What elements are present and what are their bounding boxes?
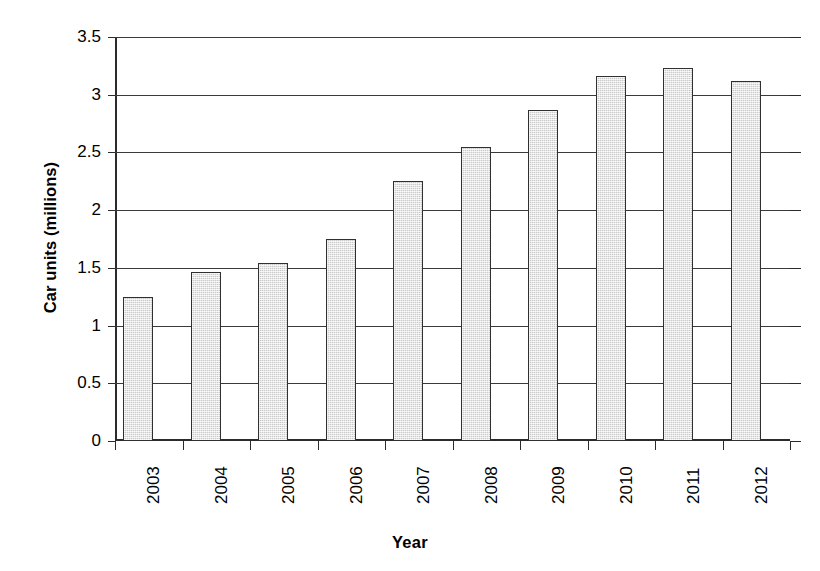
y-axis-tick-right [790, 441, 801, 442]
x-axis-tick-label-2006: 2006 [348, 384, 365, 504]
plot-area [115, 37, 790, 441]
y-axis-tick [108, 37, 115, 38]
x-axis-tick-label-2009: 2009 [550, 384, 567, 504]
x-axis-tick [588, 441, 589, 450]
x-axis-tick-label-2011: 2011 [685, 384, 702, 504]
x-axis-tick [318, 441, 319, 450]
x-axis-tick [790, 441, 791, 450]
x-axis-tick-label-2005: 2005 [280, 384, 297, 504]
y-axis-tick-right [790, 210, 801, 211]
y-axis-tick [108, 268, 115, 269]
y-axis-tick-right [790, 383, 801, 384]
y-axis-tick [108, 95, 115, 96]
x-axis-tick-label-2004: 2004 [213, 384, 230, 504]
y-axis-tick-right [790, 37, 801, 38]
x-axis-tick-label-2007: 2007 [415, 384, 432, 504]
y-axis-tick-label: 2 [45, 201, 101, 218]
y-axis-tick-label: 0.5 [45, 374, 101, 391]
y-axis-tick-label: 1.5 [45, 259, 101, 276]
x-axis-title: Year [0, 533, 820, 552]
x-axis-tick [250, 441, 251, 450]
x-axis-tick [655, 441, 656, 450]
x-axis-tick [115, 441, 116, 450]
bar-slot [115, 37, 183, 441]
y-axis-tick [108, 152, 115, 153]
y-axis-tick [108, 441, 115, 442]
y-axis-tick-right [790, 95, 801, 96]
bar-slot [183, 37, 251, 441]
bar-slot [250, 37, 318, 441]
x-axis-tick [520, 441, 521, 450]
y-axis-tick [108, 383, 115, 384]
y-axis-tick [108, 210, 115, 211]
x-axis-tick-label-2012: 2012 [753, 384, 770, 504]
bar-slot [385, 37, 453, 441]
x-axis-tick [453, 441, 454, 450]
y-axis-tick-right [790, 326, 801, 327]
bar-slot [318, 37, 386, 441]
x-axis-tick-label-2003: 2003 [145, 384, 162, 504]
y-axis-tick-label: 2.5 [45, 143, 101, 160]
y-axis-tick-label: 0 [45, 432, 101, 449]
y-axis-title: Car units (millions) [41, 88, 60, 388]
y-axis-tick-label: 3.5 [45, 28, 101, 45]
x-axis-tick-label-2010: 2010 [618, 384, 635, 504]
bar-slot [723, 37, 791, 441]
bar-series [115, 37, 790, 441]
bar-chart: Car units (millions) 00.511.522.533.5 20… [0, 0, 820, 571]
y-axis-tick-right [790, 268, 801, 269]
y-axis-tick [108, 326, 115, 327]
x-axis-tick-label-2008: 2008 [483, 384, 500, 504]
bar-slot [588, 37, 656, 441]
bar-slot [453, 37, 521, 441]
bar-slot [655, 37, 723, 441]
y-axis-tick-label: 3 [45, 86, 101, 103]
x-axis-tick [723, 441, 724, 450]
y-axis-tick-right [790, 152, 801, 153]
y-axis-tick-label: 1 [45, 317, 101, 334]
bar-slot [520, 37, 588, 441]
x-axis-tick [183, 441, 184, 450]
x-axis-tick [385, 441, 386, 450]
